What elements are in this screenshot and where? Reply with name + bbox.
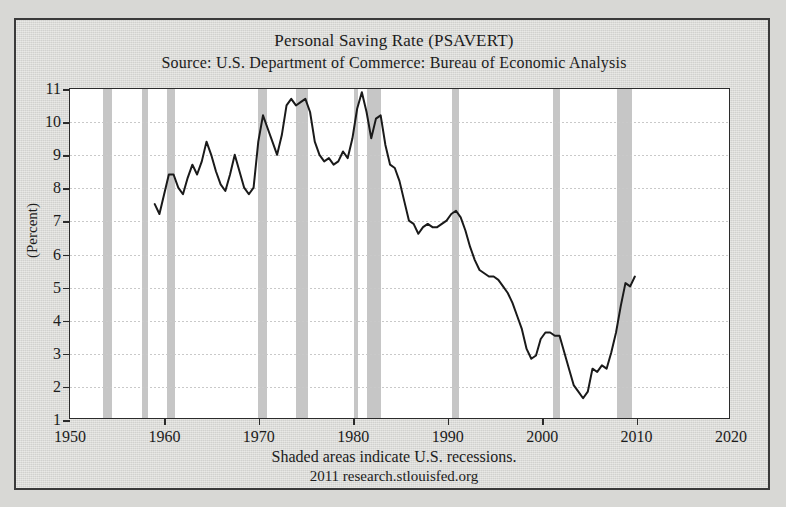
y-axis-tick-label: 10: [45, 113, 61, 131]
page-title: Personal Saving Rate (PSAVERT): [16, 30, 772, 52]
chart-source-line: Source: U.S. Department of Commerce: Bur…: [16, 52, 772, 74]
y-axis-title: (Percent): [24, 203, 41, 258]
x-axis-tick-label: 1980: [337, 428, 369, 446]
y-axis-tick-label: 5: [53, 279, 61, 297]
y-axis-tick: [63, 354, 70, 356]
y-axis-tick-label: 3: [53, 345, 61, 363]
recession-note: Shaded areas indicate U.S. recessions.: [16, 448, 772, 466]
x-axis-tick: [448, 418, 450, 425]
y-axis-tick-label: 11: [46, 80, 61, 98]
y-axis-tick: [63, 387, 70, 389]
x-axis-tick: [353, 418, 355, 425]
x-axis-tick-label: 1950: [54, 428, 86, 446]
y-axis-tick: [63, 188, 70, 190]
y-axis-tick: [63, 89, 70, 91]
y-axis-tick: [63, 321, 70, 323]
y-axis-tick-label: 6: [53, 246, 61, 264]
y-axis-tick: [63, 122, 70, 124]
y-axis-tick: [63, 221, 70, 223]
y-axis-tick-label: 9: [53, 146, 61, 164]
chart-page: Personal Saving Rate (PSAVERT) Source: U…: [0, 0, 786, 507]
y-axis-tick-label: 4: [53, 312, 61, 330]
plot-area: 1234567891011 19501960197019801990200020…: [69, 88, 730, 419]
x-axis-tick-label: 1960: [148, 428, 180, 446]
x-axis-tick-label: 2010: [621, 428, 653, 446]
x-axis-tick-label: 2020: [715, 428, 747, 446]
x-axis-tick-label: 1970: [243, 428, 275, 446]
x-axis-tick-label: 1990: [432, 428, 464, 446]
x-axis-tick: [259, 418, 261, 425]
x-axis-tick: [542, 418, 544, 425]
y-axis-tick-label: 1: [53, 411, 61, 429]
y-axis-tick: [63, 420, 70, 422]
y-axis-tick-label: 8: [53, 179, 61, 197]
y-axis-tick-label: 7: [53, 212, 61, 230]
series-line: [70, 89, 729, 418]
chart-title-block: Personal Saving Rate (PSAVERT) Source: U…: [16, 30, 772, 74]
x-axis-tick: [637, 418, 639, 425]
attribution-note: 2011 research.stlouisfed.org: [16, 468, 772, 485]
y-axis-tick: [63, 288, 70, 290]
x-axis-tick-label: 2000: [526, 428, 558, 446]
y-axis-tick: [63, 255, 70, 257]
x-axis-tick: [164, 418, 166, 425]
y-axis-tick-label: 2: [53, 378, 61, 396]
chart-paper: Personal Saving Rate (PSAVERT) Source: U…: [14, 18, 770, 490]
y-axis-tick: [63, 155, 70, 157]
